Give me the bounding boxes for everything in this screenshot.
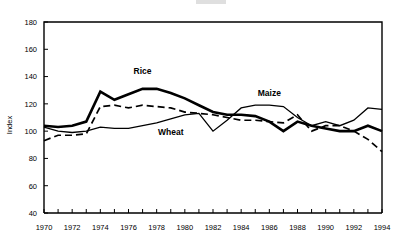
- y-tick-label: 160: [24, 45, 37, 54]
- data-series-group: [44, 89, 382, 152]
- x-tick-label: 1986: [261, 223, 278, 232]
- y-tick-label: 140: [24, 72, 37, 81]
- x-tick-label: 1992: [345, 223, 362, 232]
- x-axis-tick-labels: 1970197219741976197819801982198419861988…: [36, 223, 391, 232]
- y-tick-label: 40: [29, 209, 37, 218]
- series-label-maize: Maize: [258, 88, 281, 98]
- chart-container: 406080100120140160180 197019721974197619…: [0, 0, 415, 247]
- y-tick-label: 120: [24, 100, 37, 109]
- x-tick-label: 1970: [36, 223, 53, 232]
- x-tick-label: 1990: [317, 223, 334, 232]
- y-tick-label: 60: [29, 182, 37, 191]
- x-tick-label: 1988: [289, 223, 306, 232]
- x-tick-label: 1982: [205, 223, 222, 232]
- x-tick-label: 1984: [233, 223, 250, 232]
- series-line-rice: [44, 89, 382, 131]
- series-label-wheat: Wheat: [158, 127, 184, 137]
- x-tick-label: 1980: [176, 223, 193, 232]
- y-axis-tick-labels: 406080100120140160180: [24, 18, 37, 218]
- series-label-rice: Rice: [134, 66, 152, 76]
- x-tick-label: 1972: [64, 223, 81, 232]
- x-tick-label: 1974: [92, 223, 109, 232]
- y-tick-label: 80: [29, 154, 37, 163]
- y-axis-title: Index: [5, 116, 14, 135]
- x-tick-label: 1994: [374, 223, 391, 232]
- x-tick-label: 1976: [120, 223, 137, 232]
- x-tick-label: 1978: [148, 223, 165, 232]
- line-chart: 406080100120140160180 197019721974197619…: [0, 0, 415, 247]
- y-tick-label: 180: [24, 18, 37, 27]
- series-annotations: RiceWheatMaize: [134, 66, 282, 137]
- y-tick-label: 100: [24, 127, 37, 136]
- scan-artifact: [196, 0, 226, 4]
